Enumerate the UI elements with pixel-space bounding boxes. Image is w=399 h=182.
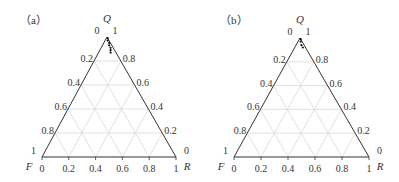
right-tick-label: 1 bbox=[113, 25, 118, 36]
ternary-panel-b: （b） 00.20.40.60.8110.80.60.40.2000.20.40… bbox=[200, 0, 399, 182]
data-point bbox=[302, 46, 304, 48]
right-tick-label: 0.8 bbox=[123, 53, 136, 64]
left-tick-label: 0.6 bbox=[247, 101, 260, 112]
right-tick-label: 0.4 bbox=[150, 101, 163, 112]
axis-label-f: F bbox=[25, 160, 33, 172]
data-point bbox=[107, 40, 109, 42]
bottom-tick-label: 0 bbox=[232, 163, 237, 174]
right-tick-label: 0 bbox=[184, 145, 189, 156]
left-tick-label: 0.4 bbox=[68, 77, 81, 88]
right-tick-label: 0.8 bbox=[316, 54, 329, 65]
grid-line bbox=[149, 133, 162, 157]
triangle-frame bbox=[42, 37, 176, 157]
left-tick-label: 0.6 bbox=[55, 101, 68, 112]
data-point bbox=[110, 52, 112, 54]
right-tick-label: 0.2 bbox=[164, 125, 177, 136]
data-point bbox=[300, 40, 302, 42]
ternary-plot-b: 00.20.40.60.8110.80.60.40.2000.20.40.60.… bbox=[200, 0, 399, 182]
data-point bbox=[300, 44, 302, 46]
left-tick-label: 0.8 bbox=[42, 125, 55, 136]
right-tick-label: 0.6 bbox=[330, 78, 343, 89]
bottom-tick-label: 0.4 bbox=[89, 163, 102, 174]
right-tick-label: 0.4 bbox=[343, 101, 356, 112]
bottom-tick-label: 0.6 bbox=[309, 163, 322, 174]
triangle-frame bbox=[234, 38, 369, 157]
axis-label-r: R bbox=[183, 160, 191, 172]
left-tick-label: 0 bbox=[95, 25, 100, 36]
ternary-plot-a: 00.20.40.60.8110.80.60.40.2000.20.40.60.… bbox=[0, 0, 200, 182]
bottom-tick-label: 1 bbox=[367, 163, 372, 174]
right-tick-label: 0.6 bbox=[137, 77, 150, 88]
data-point bbox=[108, 42, 110, 44]
bottom-tick-label: 0.2 bbox=[255, 163, 268, 174]
grid-line bbox=[247, 133, 261, 157]
bottom-tick-label: 0.8 bbox=[336, 163, 349, 174]
left-tick-label: 0.8 bbox=[234, 125, 247, 136]
bottom-tick-label: 0.2 bbox=[63, 163, 76, 174]
bottom-tick-label: 0.6 bbox=[116, 163, 129, 174]
bottom-tick-label: 1 bbox=[174, 163, 179, 174]
right-tick-label: 0.2 bbox=[357, 125, 370, 136]
axis-label-r: R bbox=[376, 160, 384, 172]
right-tick-label: 0 bbox=[377, 145, 382, 156]
data-point bbox=[109, 47, 111, 49]
right-tick-label: 1 bbox=[306, 26, 311, 37]
grid-line bbox=[342, 133, 355, 157]
bottom-tick-label: 0.8 bbox=[143, 163, 156, 174]
axis-label-q: Q bbox=[103, 12, 111, 24]
left-tick-label: 0.2 bbox=[81, 53, 94, 64]
axis-label-q: Q bbox=[296, 13, 304, 25]
bottom-tick-label: 0 bbox=[40, 163, 45, 174]
axis-label-f: F bbox=[217, 160, 225, 172]
bottom-tick-label: 0.4 bbox=[282, 163, 295, 174]
data-point bbox=[107, 37, 109, 39]
data-point bbox=[109, 49, 111, 51]
left-tick-label: 0.2 bbox=[273, 54, 286, 65]
ternary-panel-a: （a） 00.20.40.60.8110.80.60.40.2000.20.40… bbox=[0, 0, 200, 182]
grid-line bbox=[55, 133, 69, 157]
left-tick-label: 0 bbox=[288, 26, 293, 37]
data-point bbox=[300, 38, 302, 40]
left-tick-label: 1 bbox=[223, 145, 228, 156]
data-point bbox=[108, 44, 110, 46]
left-tick-label: 1 bbox=[31, 145, 36, 156]
left-tick-label: 0.4 bbox=[260, 78, 273, 89]
